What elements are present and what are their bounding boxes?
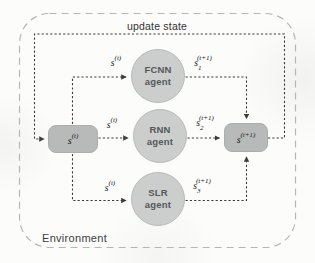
agent-slr-name: SLR	[148, 187, 168, 199]
slr-input-wire	[73, 154, 127, 201]
agent-fcnn-name: FCNN	[144, 64, 171, 76]
agent-circle-rnn: RNN agent	[133, 109, 187, 163]
agent-fcnn-role: agent	[145, 76, 171, 88]
signal-label-output-fcnn: s1(t+1)	[194, 52, 212, 70]
agent-rnn-role: agent	[147, 136, 173, 148]
signal-label-input-fcnn: s(t)	[111, 52, 121, 70]
fcnn-input-wire	[73, 77, 127, 124]
signal-label-output-rnn: s2(t+1)	[196, 112, 214, 130]
agent-circle-fcnn: FCNN agent	[131, 49, 185, 103]
state-next-label: s(t+1)	[237, 129, 256, 147]
agent-slr-role: agent	[145, 199, 171, 211]
agent-circle-slr: SLR agent	[131, 172, 185, 226]
signal-label-input-rnn: s(t)	[107, 114, 117, 132]
signal-label-output-slr: s3(t+1)	[193, 175, 211, 193]
state-current-label: s(t)	[68, 130, 79, 148]
state-box-next: s(t+1)	[224, 123, 268, 152]
fcnn-output-wire	[186, 77, 247, 119]
state-box-current: s(t)	[48, 125, 98, 153]
update-state-label: update state	[127, 20, 187, 32]
agent-rnn-name: RNN	[149, 124, 170, 136]
figure-canvas: update state Environment s(t) s(t+1) FCN…	[0, 0, 315, 263]
signal-label-input-slr: s(t)	[105, 177, 115, 195]
environment-label: Environment	[42, 232, 107, 244]
